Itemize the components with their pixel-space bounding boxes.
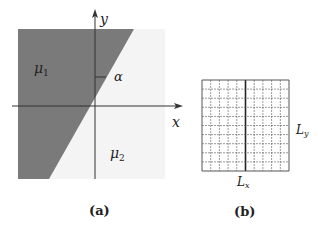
panel-a: x y α μ1 μ2 (a) xyxy=(12,9,183,218)
angle-label: α xyxy=(114,69,123,84)
caption-b: (b) xyxy=(234,204,255,219)
x-axis-label: x xyxy=(172,114,180,130)
panel-b: Lx Ly (b) xyxy=(202,80,309,219)
figure: x y α μ1 μ2 (a) Lx Ly (b) xyxy=(0,0,318,230)
ly-label: Ly xyxy=(295,123,309,138)
lattice-grid xyxy=(202,80,289,171)
y-axis-label: y xyxy=(99,11,109,27)
lx-label: Lx xyxy=(236,175,250,190)
caption-a: (a) xyxy=(89,203,110,218)
